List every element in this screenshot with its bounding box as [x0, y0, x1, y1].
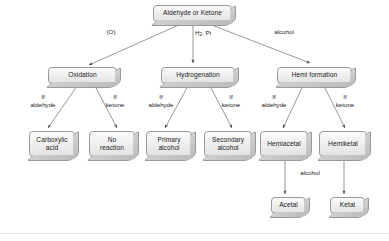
edge-label-line1: If: [216, 93, 246, 101]
edge-label-hydrogenation-if-ketone: If ketone: [216, 93, 246, 108]
edge-label-line2: aldehyde: [26, 101, 60, 109]
node-ketal[interactable]: Ketal: [330, 197, 365, 214]
node-carboxylic-acid[interactable]: Carboxylic acid: [29, 131, 75, 157]
edge-label-alcohol-bottom: alcohol: [296, 169, 324, 177]
node-label-line2: alcohol: [156, 144, 181, 152]
edge-label-line2: ketone: [100, 101, 130, 109]
node-label: Oxidation: [66, 71, 98, 79]
edge-label-line2: ketone: [216, 101, 246, 109]
edge-label-line2: ketone: [330, 101, 360, 109]
edge-label-line2: aldehyde: [144, 101, 178, 109]
edge-label-subscript: 2: [199, 32, 202, 37]
edge-label-line2: aldehyde: [257, 101, 291, 109]
node-acetal[interactable]: Acetal: [271, 197, 306, 214]
edge-label-line1: If: [257, 93, 291, 101]
edge-label-oxidation-if-ketone: If ketone: [100, 93, 130, 108]
edge-label-line1: If: [26, 93, 60, 101]
edge-label-line1: If: [330, 93, 360, 101]
node-label: Ketal: [338, 201, 357, 209]
node-label: Hemi formation: [290, 71, 339, 79]
node-label-line2: reaction: [98, 144, 126, 152]
node-label-line1: Secondary: [210, 136, 246, 144]
node-label-line1: No: [106, 136, 119, 144]
node-primary-alcohol[interactable]: Primary alcohol: [146, 131, 192, 157]
node-hemiketal[interactable]: Hemiketal: [319, 131, 367, 157]
node-label-line1: Primary: [155, 136, 182, 144]
edge-label-line1: If: [144, 93, 178, 101]
node-label-line1: Carboxylic: [34, 136, 69, 144]
node-hemi-formation[interactable]: Hemi formation: [277, 67, 352, 84]
node-label: Hydrogenation: [174, 71, 222, 79]
edge-label-text-pt: , Pt: [202, 29, 211, 36]
node-oxidation[interactable]: Oxidation: [48, 67, 117, 84]
edge-label-hemiformation-if-ketone: If ketone: [330, 93, 360, 108]
node-secondary-alcohol[interactable]: Secondary alcohol: [204, 131, 252, 157]
node-no-reaction[interactable]: No reaction: [89, 131, 135, 157]
diagram-canvas: Aldehyde or Ketone Oxidation Hydrogenati…: [0, 0, 389, 241]
edge-label-text: alcohol: [274, 28, 294, 35]
edge-label-oxidation-if-aldehyde: If aldehyde: [26, 93, 60, 108]
edge-label-hydrogenation-if-aldehyde: If aldehyde: [144, 93, 178, 108]
node-label: Hemiketal: [326, 140, 360, 148]
edge-label-text: alcohol: [300, 169, 320, 176]
node-hemiacetal[interactable]: Hemiacetal: [260, 131, 308, 157]
edge-label-text: (O): [107, 28, 116, 35]
node-label: Hemiacetal: [265, 140, 302, 148]
node-label-line2: acid: [44, 144, 60, 152]
node-aldehyde-or-ketone[interactable]: Aldehyde or Ketone: [153, 5, 232, 22]
node-label: Aldehyde or Ketone: [161, 9, 224, 17]
node-hydrogenation[interactable]: Hydrogenation: [161, 67, 235, 84]
footer-divider: [0, 233, 389, 234]
node-label: Acetal: [277, 201, 300, 209]
node-label-line2: alcohol: [215, 144, 240, 152]
edge-label-hemiformation-if-aldehyde: If aldehyde: [257, 93, 291, 108]
edge-label-oxidizer: (O): [101, 28, 121, 36]
edge-label-alcohol-top: alcohol: [270, 28, 298, 36]
edge-label-hydrogen-catalyst: H2, Pt: [195, 29, 223, 38]
edge-label-line1: If: [100, 93, 130, 101]
